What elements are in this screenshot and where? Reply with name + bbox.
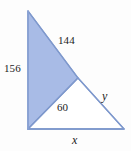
label-left-leg: 156	[4, 63, 21, 74]
geometry-figure: 144 156 60 y x	[0, 0, 131, 151]
label-lower-hypotenuse: y	[102, 90, 107, 102]
label-base: x	[72, 134, 77, 146]
label-upper-hypotenuse: 144	[58, 35, 75, 46]
label-shared-segment: 60	[57, 102, 68, 113]
figure-canvas	[0, 0, 131, 151]
